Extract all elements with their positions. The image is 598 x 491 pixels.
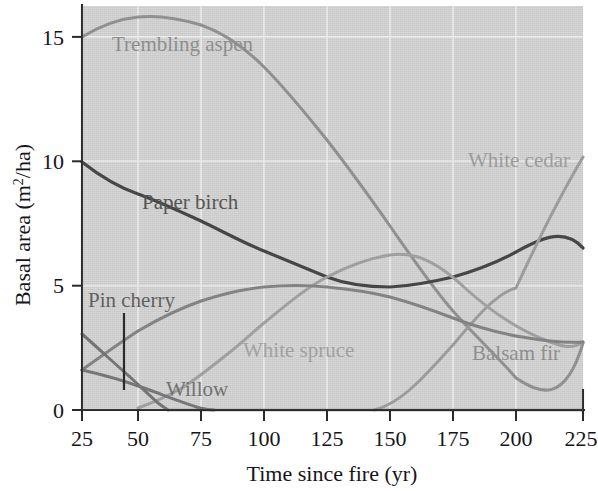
chart-figure: 0 5 10 15 25 50 75 100 125 150 175 200 2… bbox=[0, 0, 598, 491]
y-axis-title: Basal area (m2/ha) bbox=[10, 144, 35, 306]
series-label-balsam-fir: Balsam fir bbox=[472, 341, 560, 365]
chart-canvas: 0 5 10 15 25 50 75 100 125 150 175 200 2… bbox=[0, 0, 598, 491]
y-tick-label-5: 5 bbox=[53, 273, 64, 298]
x-tick-label-225: 225 bbox=[565, 426, 598, 451]
x-tick-label-125: 125 bbox=[311, 426, 344, 451]
x-tick-label-75: 75 bbox=[190, 426, 212, 451]
series-label-white-spruce: White spruce bbox=[243, 338, 354, 362]
series-label-white-cedar: White cedar bbox=[468, 148, 570, 172]
y-tick-marks bbox=[72, 37, 82, 410]
y-axis-title-superscript: 2 bbox=[11, 178, 26, 185]
x-axis-title: Time since fire (yr) bbox=[247, 461, 418, 486]
x-tick-label-200: 200 bbox=[500, 426, 533, 451]
y-axis-title-main: Basal area (m bbox=[10, 185, 35, 306]
x-tick-label-25: 25 bbox=[71, 426, 93, 451]
x-tick-label-175: 175 bbox=[437, 426, 470, 451]
x-tick-label-150: 150 bbox=[374, 426, 407, 451]
y-axis-title-tail: /ha) bbox=[10, 144, 35, 178]
svg-text:Basal area (m2/ha): Basal area (m2/ha) bbox=[10, 144, 35, 306]
y-tick-label-0: 0 bbox=[53, 398, 64, 423]
y-tick-label-10: 10 bbox=[42, 149, 64, 174]
series-label-trembling-aspen: Trembling aspen bbox=[112, 32, 253, 56]
x-tick-marks bbox=[82, 410, 583, 421]
x-tick-label-50: 50 bbox=[127, 426, 149, 451]
x-tick-label-100: 100 bbox=[248, 426, 281, 451]
series-label-paper-birch: Paper birch bbox=[142, 190, 239, 214]
y-tick-label-15: 15 bbox=[42, 25, 64, 50]
series-label-willow: Willow bbox=[166, 377, 229, 401]
series-label-pin-cherry: Pin cherry bbox=[88, 288, 175, 312]
